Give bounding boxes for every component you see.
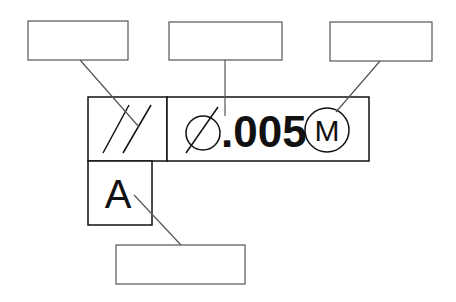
tolerance-value: .005	[221, 107, 307, 156]
datum-label-box	[116, 245, 245, 284]
modifier-label-box	[330, 22, 432, 61]
tolerance-label-box	[169, 22, 282, 60]
symbol-label-box	[28, 21, 128, 60]
datum-letter: A	[105, 172, 132, 216]
modifier-letter: M	[315, 114, 340, 147]
gdt-diagram: .005 M A	[0, 0, 456, 302]
